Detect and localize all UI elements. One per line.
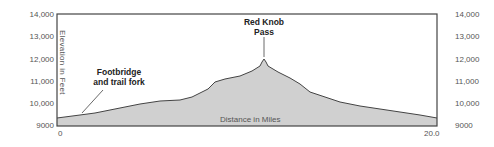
annotation-footbridge-line1: Footbridge: [84, 67, 154, 77]
annotation-red-knob-pass: Red Knob Pass: [234, 17, 294, 37]
annotation-pass-line1: Red Knob: [234, 17, 294, 27]
y-axis-label: Elevation in Feet: [58, 30, 67, 95]
x-tick-end: 20.0: [424, 129, 440, 138]
annotation-footbridge-line2: and trail fork: [84, 77, 154, 87]
x-axis-label: Distance in Miles: [220, 115, 280, 124]
annotation-pass-line2: Pass: [234, 27, 294, 37]
footbridge-leader-line: [82, 90, 103, 113]
x-tick-start: 0: [58, 129, 62, 138]
annotation-footbridge: Footbridge and trail fork: [84, 67, 154, 87]
